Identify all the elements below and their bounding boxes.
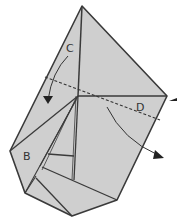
- origami-diagram: C D B: [0, 0, 180, 220]
- label-b: B: [23, 150, 31, 163]
- fold-arrow-d-head: [153, 150, 164, 159]
- label-d: D: [136, 101, 144, 114]
- label-c: C: [66, 42, 74, 55]
- pointer-arrow: [169, 98, 177, 101]
